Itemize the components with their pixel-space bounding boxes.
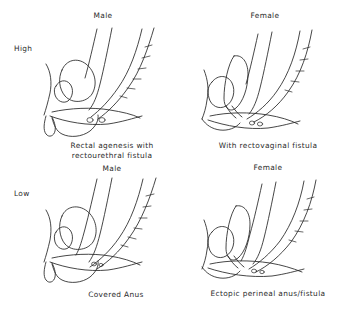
caption-female-low: Ectopic perineal anus/fistula [211, 289, 326, 299]
diagram-female-high-sagittal [198, 26, 320, 138]
column-header-female: Female [251, 11, 280, 21]
column-header-male: Male [94, 11, 113, 21]
caption-male-low: Covered Anus [88, 290, 144, 300]
diagram-male-high-sagittal [42, 26, 162, 138]
diagram-female-low-sagittal [198, 176, 324, 284]
row-label-low: Low [14, 189, 30, 199]
caption-male-high: Rectal agenesis with rectourethral fistu… [52, 141, 172, 160]
diagram-male-low-sagittal [42, 176, 164, 284]
caption-female-high: With rectovaginal fistula [219, 141, 318, 151]
anorectal-malformation-figure: Male Female High Low [0, 0, 338, 312]
column-header-male-lower: Male [103, 164, 122, 174]
row-label-high: High [14, 44, 32, 54]
column-header-female-lower: Female [254, 163, 283, 173]
